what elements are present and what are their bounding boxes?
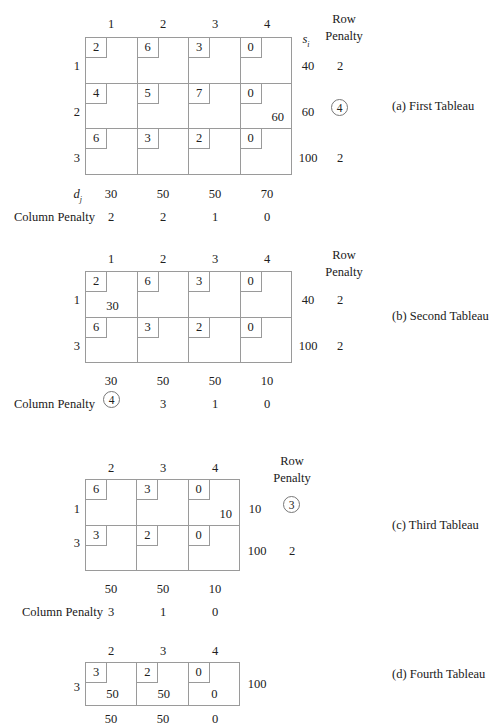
tableau-a-cell-2-2: 5	[138, 84, 190, 129]
tableau-b-cell-2-2: 3	[138, 318, 190, 363]
tableau-c-row-penalty-1-circled: 3	[283, 496, 300, 513]
tableau-c-row-penalty-2: 2	[289, 545, 295, 558]
tableau-a-cell-1-4: 0	[241, 38, 292, 83]
caption-d: (d) Fourth Tableau	[392, 668, 485, 681]
tableau-d-row-header-1: 3	[74, 681, 80, 694]
tableau-c-row-header-1: 1	[74, 503, 80, 516]
tableau-a-grid: 2 6 3 0 4 5 7 060 6 3 2 0	[85, 37, 292, 175]
tableau-a-cell-1-1: 2	[86, 38, 138, 83]
cost-value: 3	[189, 38, 210, 58]
tableau-c-column-penalty-1: 3	[108, 606, 114, 619]
cost-value: 6	[138, 38, 159, 58]
row-penalty-label-line2: Penalty	[273, 472, 311, 485]
tableau-a-row-header-3: 3	[74, 152, 80, 165]
table-row: 350 250 00	[86, 663, 239, 705]
tableau-a-cell-2-3: 7	[189, 84, 241, 129]
tableau-b-cell-1-2: 6	[138, 272, 190, 317]
caption-b: (b) Second Tableau	[392, 310, 489, 323]
tableau-c-cell-1-2: 3	[137, 480, 188, 525]
tableau-c-cell-1-3: 010	[189, 480, 239, 525]
tableau-a-demand-4: 70	[261, 188, 274, 201]
tableau-a-column-penalty-1: 2	[108, 211, 114, 224]
tableau-a-cell-1-3: 3	[189, 38, 241, 83]
table-row: 6 3 010	[86, 480, 239, 526]
tableau-b-col-header-1: 1	[108, 253, 114, 266]
cost-value: 0	[241, 84, 262, 104]
tableau-a-row-penalty-2-circled: 4	[331, 99, 348, 116]
table-row: 4 5 7 060	[86, 84, 291, 130]
tableau-a-row-header-1: 1	[74, 60, 80, 73]
tableau-c-supply-2: 100	[248, 545, 267, 558]
tableau-b-column-penalty-3: 1	[212, 398, 218, 411]
cost-value: 3	[86, 526, 107, 546]
cost-value: 2	[189, 129, 210, 149]
cost-value: 3	[138, 129, 159, 149]
tableau-b-cell-2-3: 2	[189, 318, 241, 363]
tableau-b-col-header-3: 3	[212, 253, 218, 266]
tableau-a-row-header-2: 2	[74, 106, 80, 119]
cost-value: 6	[86, 129, 107, 149]
cost-value: 2	[86, 272, 107, 292]
cost-value: 0	[241, 129, 262, 149]
tableau-a-demand-1: 30	[105, 188, 118, 201]
tableau-a-col-header-4: 4	[264, 18, 270, 31]
allocation-value: 0	[211, 687, 217, 702]
row-penalty-label-line1: Row	[332, 13, 356, 26]
tableau-a-cell-1-2: 6	[138, 38, 190, 83]
tableau-c-cell-2-2: 2	[137, 526, 188, 571]
tableau-b-col-header-2: 2	[160, 253, 166, 266]
row-penalty-label-line1: Row	[280, 455, 304, 468]
cost-value: 2	[137, 663, 158, 683]
tableau-a-cell-2-1: 4	[86, 84, 138, 129]
allocation-value: 10	[219, 507, 232, 522]
tableau-a-cell-3-3: 2	[189, 129, 241, 174]
tableau-c-cell-2-3: 0	[189, 526, 239, 571]
cost-value: 7	[189, 84, 210, 104]
tableau-a-supply-1: 40	[302, 60, 315, 73]
tableau-d-grid: 350 250 00	[85, 662, 240, 706]
tableau-a-col-header-1: 1	[108, 18, 114, 31]
allocation-value: 50	[157, 687, 170, 702]
cost-value: 0	[189, 663, 210, 683]
tableau-a-demand-3: 50	[209, 188, 222, 201]
tableau-c-demand-3: 10	[209, 583, 222, 596]
cost-value: 3	[138, 318, 159, 338]
tableau-b-column-penalty-4: 0	[264, 398, 270, 411]
tableau-d-demand-1: 50	[105, 713, 118, 726]
tableau-b-cell-2-4: 0	[241, 318, 292, 363]
row-penalty-label-line2: Penalty	[325, 266, 363, 279]
cost-value: 0	[189, 480, 210, 500]
caption-a: (a) First Tableau	[392, 100, 474, 113]
tableau-b-cell-1-1: 230	[86, 272, 138, 317]
tableau-a-cell-2-4: 060	[241, 84, 292, 129]
cost-value: 6	[86, 480, 107, 500]
tableau-b-supply-1: 40	[302, 294, 315, 307]
tableau-b-row-header-1: 1	[74, 294, 80, 307]
tableau-b-demand-4: 10	[261, 375, 274, 388]
allocation-value: 50	[106, 687, 119, 702]
table-row: 6 3 2 0	[86, 129, 291, 174]
tableau-b-demand-1: 30	[105, 375, 118, 388]
table-row: 6 3 2 0	[86, 318, 291, 363]
cost-value: 5	[138, 84, 159, 104]
tableau-a-col-header-3: 3	[212, 18, 218, 31]
tableau-c-demand-2: 50	[157, 583, 170, 596]
cost-value: 0	[241, 318, 262, 338]
tableau-c-row-header-2: 3	[74, 537, 80, 550]
tableau-d-col-header-3: 4	[212, 645, 218, 658]
tableau-d-col-header-1: 2	[108, 645, 114, 658]
supply-symbol: si	[302, 33, 309, 49]
tableau-d-demand-2: 50	[157, 713, 170, 726]
allocation-value: 60	[272, 110, 285, 125]
cost-value: 2	[137, 526, 158, 546]
cost-value: 4	[86, 84, 107, 104]
caption-c: (c) Third Tableau	[392, 519, 479, 532]
tableau-a-demand-2: 50	[157, 188, 170, 201]
column-penalty-label: Column Penalty	[14, 398, 95, 411]
tableau-a-row-penalty-1: 2	[337, 60, 343, 73]
tableau-b-column-penalty-1-circled: 4	[103, 391, 120, 408]
tableau-a-cell-3-2: 3	[138, 129, 190, 174]
cost-value: 2	[86, 38, 107, 58]
row-penalty-label-line1: Row	[332, 249, 356, 262]
tableau-b-row-header-2: 3	[74, 340, 80, 353]
